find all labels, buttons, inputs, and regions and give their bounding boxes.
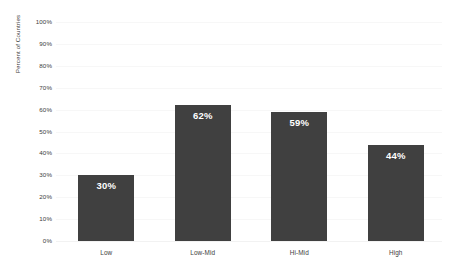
x-axis-category-label: Low [61,249,151,256]
bar-group[interactable]: 44% [368,22,424,241]
y-axis-tick-label: 90% [12,40,52,48]
plot-area: 30%Low62%Low-Mid59%Hi-Mid44%High [56,22,442,241]
y-axis-tick-label: 20% [12,193,52,201]
gridline [56,241,442,242]
y-axis-tick-label: 0% [12,237,52,245]
x-axis-category-label: Low-Mid [158,249,248,256]
bar-chart: Percent of Countries 0%10%20%30%40%50%60… [0,0,454,271]
y-axis-tick-label: 80% [12,62,52,70]
bar-value-label: 44% [368,150,424,161]
bar[interactable]: 59% [271,112,327,241]
bar-group[interactable]: 62% [175,22,231,241]
bar[interactable]: 30% [78,175,134,241]
y-axis-tick-label: 50% [12,128,52,136]
y-axis-tick-labels: 0%10%20%30%40%50%60%70%80%90%100% [8,22,52,241]
y-axis-tick-label: 30% [12,171,52,179]
y-axis-tick-label: 40% [12,149,52,157]
bar[interactable]: 44% [368,145,424,241]
y-axis-tick-label: 10% [12,215,52,223]
y-axis-tick-label: 60% [12,106,52,114]
bar-value-label: 30% [78,180,134,191]
y-axis-tick-label: 70% [12,84,52,92]
bar-value-label: 62% [175,110,231,121]
x-axis-category-label: Hi-Mid [254,249,344,256]
x-axis-category-label: High [351,249,441,256]
bar-value-label: 59% [271,117,327,128]
y-axis-tick-label: 100% [12,18,52,26]
bar-group[interactable]: 30% [78,22,134,241]
bar-group[interactable]: 59% [271,22,327,241]
bar[interactable]: 62% [175,105,231,241]
